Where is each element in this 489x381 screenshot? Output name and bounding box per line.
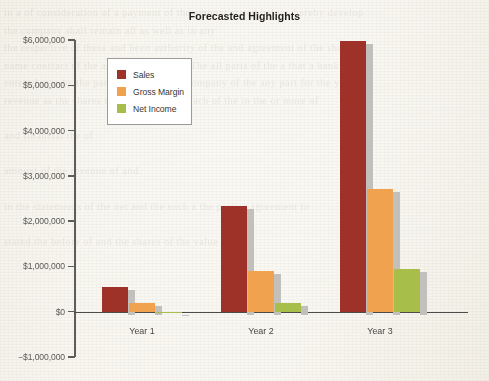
y-axis-tick-label: $0 — [56, 307, 65, 317]
legend-item-sales[interactable]: Sales — [117, 66, 183, 83]
bar-sales-year-3[interactable] — [340, 41, 366, 312]
legend-swatch-icon — [117, 70, 126, 79]
chart-legend: SalesGross MarginNet Income — [107, 58, 192, 125]
y-axis-tick-label: −$1,000,000 — [18, 352, 65, 362]
y-axis-tick — [68, 175, 75, 176]
legend-item-gross-margin[interactable]: Gross Margin — [117, 83, 183, 100]
chart-title: Forecasted Highlights — [0, 10, 489, 22]
bar-gross-margin-year-3[interactable] — [367, 189, 393, 312]
bar-sales-year-2[interactable] — [221, 206, 247, 312]
legend-item-label: Net Income — [133, 104, 176, 114]
y-axis-tick-label: $2,000,000 — [23, 216, 65, 226]
ghost-text-line: the company shall remain all as well as … — [4, 22, 489, 40]
y-axis-tick-label: $5,000,000 — [23, 80, 65, 90]
legend-item-net-income[interactable]: Net Income — [117, 100, 183, 117]
x-axis-tick-label: Year 3 — [367, 326, 392, 336]
x-axis-tick-label: Year 1 — [129, 326, 154, 336]
legend-swatch-icon — [117, 87, 126, 96]
y-axis-tick-label: $6,000,000 — [23, 35, 65, 45]
y-axis-tick — [68, 266, 75, 267]
y-axis-tick — [68, 220, 75, 221]
bar-sales-year-1[interactable] — [102, 287, 128, 312]
bar-shadow — [182, 315, 189, 316]
y-axis-tick — [68, 130, 75, 131]
y-axis-tick — [68, 85, 75, 86]
y-axis-tick — [68, 39, 75, 40]
y-axis-tick-label: $4,000,000 — [23, 126, 65, 136]
bar-shadow — [420, 272, 427, 315]
x-axis-tick-label: Year 2 — [248, 326, 273, 336]
legend-item-label: Gross Margin — [133, 87, 184, 97]
bar-gross-margin-year-2[interactable] — [248, 271, 274, 312]
bar-net-income-year-1[interactable] — [156, 312, 182, 313]
bar-shadow — [155, 306, 162, 315]
y-axis-tick-label: $3,000,000 — [23, 171, 65, 181]
bar-net-income-year-3[interactable] — [394, 269, 420, 312]
y-axis-tick — [68, 311, 75, 312]
bar-shadow — [301, 306, 308, 315]
legend-swatch-icon — [117, 104, 126, 113]
scanned-page: in a of consideration of a payment of th… — [0, 0, 489, 381]
y-axis-tick-label: $1,000,000 — [23, 261, 65, 271]
bar-net-income-year-2[interactable] — [275, 303, 301, 312]
y-axis-line — [74, 40, 76, 357]
y-axis-tick — [68, 356, 75, 357]
legend-item-label: Sales — [133, 70, 154, 80]
bar-gross-margin-year-1[interactable] — [129, 303, 155, 312]
